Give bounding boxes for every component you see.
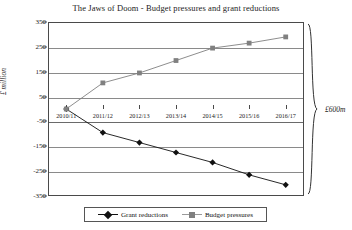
y-tick-mark (42, 71, 47, 72)
y-tick-label: -350 (6, 192, 46, 200)
y-tick-mark (42, 96, 47, 97)
series-layer (48, 22, 304, 196)
y-tick-mark (42, 196, 47, 197)
chart-legend: Grant reductions Budget pressures (84, 207, 267, 222)
y-tick-label: 150 (6, 68, 46, 76)
y-tick-label: 50 (6, 93, 46, 101)
y-tick-mark (42, 22, 47, 23)
y-tick-label: 250 (6, 43, 46, 51)
y-tick-mark (42, 171, 47, 172)
y-tick-label: -150 (6, 142, 46, 150)
data-point-marker[interactable] (246, 172, 252, 178)
legend-key-diamond-icon (98, 211, 118, 219)
data-point-marker[interactable] (100, 130, 106, 136)
legend-label-budget-pressures: Budget pressures (205, 211, 253, 219)
data-point-marker[interactable] (210, 46, 215, 51)
data-point-marker[interactable] (283, 182, 289, 188)
chart-title: The Jaws of Doom - Budget pressures and … (0, 3, 352, 13)
data-point-marker[interactable] (64, 107, 69, 112)
y-tick-label: -50 (6, 117, 46, 125)
y-tick-mark (42, 46, 47, 47)
data-point-marker[interactable] (247, 41, 252, 46)
y-tick-mark (42, 146, 47, 147)
series-line-grant-reductions (66, 109, 285, 185)
legend-label-grant-reductions: Grant reductions (121, 211, 168, 219)
y-tick-label: 350 (6, 18, 46, 26)
data-point-marker[interactable] (173, 149, 179, 155)
legend-item-budget-pressures[interactable]: Budget pressures (182, 211, 253, 219)
data-point-marker[interactable] (100, 81, 105, 86)
y-tick-label: -250 (6, 167, 46, 175)
series-line-budget-pressures (66, 37, 285, 109)
brace-label: £600m (325, 105, 345, 114)
data-point-marker[interactable] (137, 71, 142, 76)
data-point-marker[interactable] (174, 58, 179, 63)
data-point-marker[interactable] (283, 35, 288, 40)
data-point-marker[interactable] (209, 159, 215, 165)
y-tick-mark (42, 121, 47, 122)
legend-key-square-icon (182, 211, 202, 219)
legend-item-grant-reductions[interactable]: Grant reductions (98, 211, 168, 219)
chart-root: The Jaws of Doom - Budget pressures and … (0, 0, 352, 230)
data-point-marker[interactable] (136, 139, 142, 145)
